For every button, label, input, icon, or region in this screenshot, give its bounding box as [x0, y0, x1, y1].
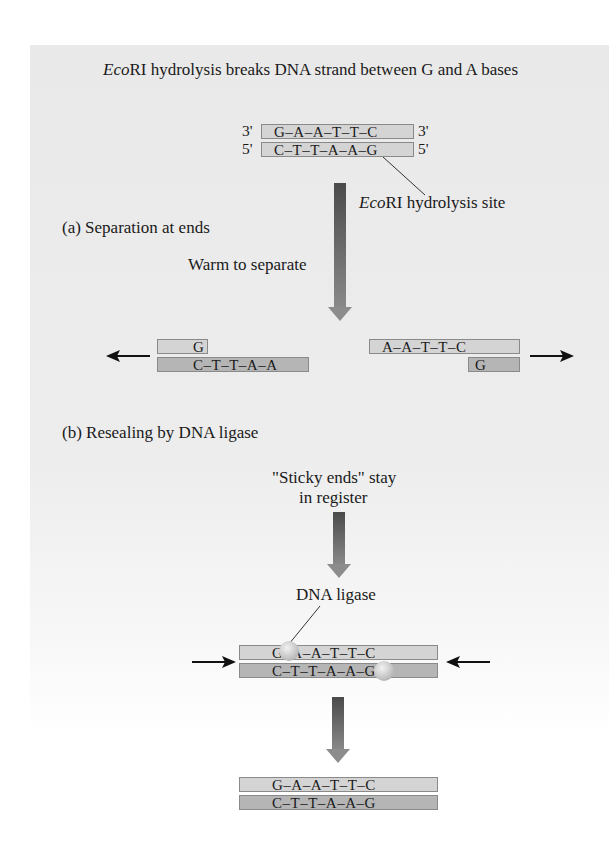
top-right-end-label: 3': [418, 122, 429, 140]
top-left-end-label: 3': [242, 122, 253, 140]
ligase-duplex-top-strand: G–A–A–T–T–C: [239, 645, 438, 660]
arrow-right-icon: [528, 348, 574, 364]
ligase-site-sphere-icon: [374, 661, 394, 681]
arrow-left-icon: [106, 348, 152, 364]
block-arrow-down-icon: [326, 697, 350, 765]
strand-sequence: G–A–A–T–T–C: [274, 125, 378, 139]
sticky-ends-label-line1: "Sticky ends" stay: [272, 468, 396, 488]
section-a-heading: (a) Separation at ends: [62, 218, 210, 238]
ligase-pointer-line: [285, 604, 325, 646]
section-b-heading: (b) Resealing by DNA ligase: [62, 423, 258, 443]
title-italic: Eco: [103, 60, 129, 79]
strand-sequence: A–A–T–T–C: [382, 340, 467, 354]
strand-sequence: C–T–T–A–A–G: [272, 664, 376, 678]
strand-sequence: G: [193, 340, 204, 354]
dna-ligase-label: DNA ligase: [296, 585, 376, 605]
right-fragment-top-strand: A–A–T–T–C: [369, 339, 520, 354]
arrow-right-icon: [190, 654, 236, 670]
final-duplex-top-strand: G–A–A–T–T–C: [239, 777, 438, 792]
site-label-rest: RI hydrolysis site: [385, 193, 505, 212]
warm-to-separate-label: Warm to separate: [188, 255, 307, 275]
left-fragment-bottom-strand: C–T–T–A–A: [157, 357, 309, 372]
right-fragment-bottom-strand: G: [468, 357, 520, 372]
title-rest: RI hydrolysis breaks DNA strand between …: [129, 60, 518, 79]
hydrolysis-site-label: EcoRI hydrolysis site: [359, 193, 505, 213]
strand-sequence: G: [475, 358, 486, 372]
block-arrow-down-icon: [328, 183, 352, 323]
final-duplex-bottom-strand: C–T–T–A–A–G: [239, 795, 438, 810]
site-label-italic: Eco: [359, 193, 385, 212]
bottom-left-end-label: 5': [242, 140, 253, 158]
strand-sequence: C–T–T–A–A–G: [274, 143, 378, 157]
strand-sequence: C–T–T–A–A–G: [272, 796, 376, 810]
initial-top-strand: G–A–A–T–T–C: [261, 124, 414, 139]
ligase-site-sphere-icon: [279, 641, 299, 661]
ligase-duplex-bottom-strand: C–T–T–A–A–G: [239, 663, 438, 678]
arrow-left-icon: [446, 654, 492, 670]
left-fragment-top-strand: G: [157, 339, 208, 354]
figure-title: EcoRI hydrolysis breaks DNA strand betwe…: [103, 60, 518, 80]
strand-sequence: C–T–T–A–A: [193, 358, 278, 372]
sticky-ends-label-line2: in register: [299, 488, 367, 508]
strand-sequence: G–A–A–T–T–C: [272, 778, 376, 792]
block-arrow-down-icon: [327, 512, 351, 580]
